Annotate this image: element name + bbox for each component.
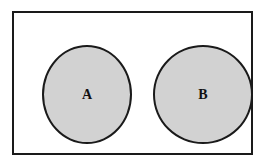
set-label-a: A [82,88,92,102]
set-circle-a[interactable]: A [42,45,132,144]
set-label-b: B [198,88,207,102]
venn-diagram: A B [0,0,266,165]
set-circle-b[interactable]: B [153,45,253,144]
universal-set-rectangle: A B [12,11,253,155]
